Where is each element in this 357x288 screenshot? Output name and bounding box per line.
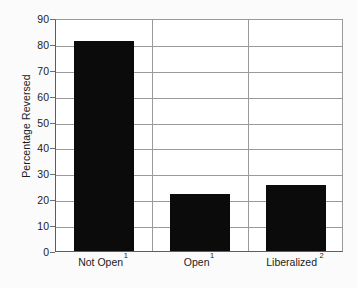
x-axis-label-text: Open <box>184 256 210 268</box>
bar-not-open <box>74 41 134 251</box>
y-axis-tick-label: 90 <box>37 14 49 25</box>
bar-open <box>170 194 230 251</box>
y-axis-tick-label: 60 <box>37 91 49 102</box>
y-axis-tick-labels: 0102030405060708090 <box>25 19 49 252</box>
x-axis-category-labels: Not Open1Open1Liberalized2 <box>55 256 343 278</box>
y-axis-tick-label: 0 <box>43 247 49 258</box>
bar-liberalized <box>266 185 326 251</box>
y-axis-tick-label: 70 <box>37 66 49 77</box>
y-axis-tick-label: 20 <box>37 195 49 206</box>
x-axis-label-open: Open1 <box>151 256 247 278</box>
y-axis-tick-label: 50 <box>37 117 49 128</box>
y-axis-tick-label: 80 <box>37 40 49 51</box>
y-axis-tick-label: 40 <box>37 143 49 154</box>
y-axis-tick-mark <box>50 252 55 253</box>
x-axis-label-liberalized: Liberalized2 <box>247 256 343 278</box>
gridline-category-separator <box>152 20 153 251</box>
bar-chart-figure: Percentage Reversed 0102030405060708090 … <box>0 0 357 288</box>
x-axis-label-text: Liberalized <box>266 256 317 268</box>
x-axis-label-text: Not Open <box>78 256 123 268</box>
y-axis-tick-label: 30 <box>37 169 49 180</box>
x-axis-label-not-open: Not Open1 <box>55 256 151 278</box>
y-axis-tick-label: 10 <box>37 221 49 232</box>
plot-area <box>55 19 343 252</box>
gridline-category-separator <box>248 20 249 251</box>
